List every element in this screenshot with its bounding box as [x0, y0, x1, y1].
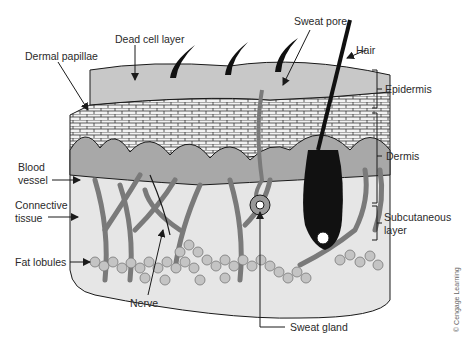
- label-connective-tissue-line1: Connective: [15, 199, 68, 211]
- label-sweat-pore: Sweat pore: [294, 15, 347, 27]
- label-fat-lobules: Fat lobules: [15, 256, 66, 268]
- label-subcutaneous-line2: layer: [384, 224, 407, 236]
- label-dermal-papillae: Dermal papillae: [25, 50, 98, 62]
- label-nerve: Nerve: [130, 297, 158, 309]
- label-dermis: Dermis: [386, 150, 419, 162]
- copyright-credit: © Cengage Learning: [453, 267, 460, 332]
- label-epidermis: Epidermis: [385, 83, 432, 95]
- label-blood-vessel-line2: vessel: [18, 174, 48, 186]
- label-dead-cell-layer: Dead cell layer: [115, 33, 184, 45]
- label-subcutaneous-line1: Subcutaneous: [384, 211, 451, 223]
- label-connective-tissue-line2: tissue: [15, 212, 42, 224]
- label-blood-vessel-line1: Blood: [18, 161, 45, 173]
- label-sweat-gland: Sweat gland: [290, 321, 348, 333]
- skin-diagram: Dead cell layer Dermal papillae Sweat po…: [0, 0, 468, 343]
- label-hair: Hair: [356, 44, 375, 56]
